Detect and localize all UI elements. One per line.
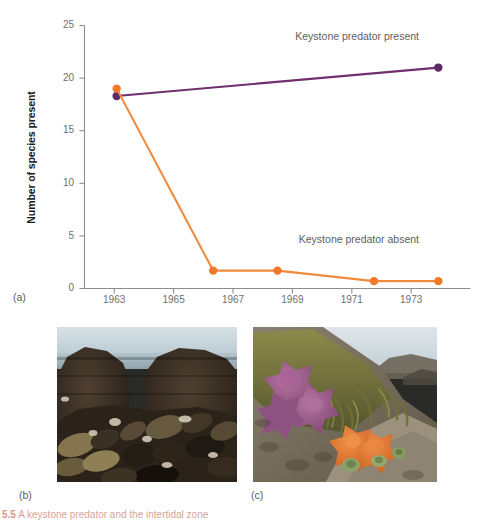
y-tick-label-25: 25 bbox=[63, 19, 75, 30]
x-tick-label-1973: 1973 bbox=[400, 294, 423, 305]
figure-caption-number: 5.5 bbox=[2, 509, 16, 520]
y-tick-label-15: 15 bbox=[63, 124, 75, 135]
annotation-predator-absent: Keystone predator absent bbox=[299, 233, 419, 245]
series-predator-present bbox=[112, 63, 442, 100]
figure-caption-text: A keystone predator and the intertidal z… bbox=[18, 509, 208, 520]
y-tick-label-20: 20 bbox=[63, 72, 75, 83]
x-tick-label-1969: 1969 bbox=[281, 294, 304, 305]
annotation-predator-present: Keystone predator present bbox=[295, 30, 419, 42]
y-tick-label-5: 5 bbox=[68, 230, 74, 241]
data-point bbox=[434, 277, 442, 285]
panel-tag-a: (a) bbox=[13, 291, 26, 303]
panel-tag-c: (c) bbox=[251, 489, 263, 501]
photo-mussel-bed bbox=[57, 327, 237, 482]
x-tick-label-1963: 1963 bbox=[103, 294, 126, 305]
data-point bbox=[273, 266, 281, 274]
photo-sea-stars bbox=[253, 327, 437, 482]
series-line bbox=[117, 89, 439, 282]
x-tick-label-1971: 1971 bbox=[341, 294, 364, 305]
x-axis-ticks: 1963 1965 1967 1969 1971 1973 bbox=[103, 289, 423, 306]
species-line-chart: 0 5 10 15 20 25 1963 1965 1967 1969 1971… bbox=[0, 0, 493, 310]
figure-caption: 5.5 A keystone predator and the intertid… bbox=[2, 509, 491, 520]
photo-c-graphic bbox=[253, 327, 437, 482]
data-point bbox=[370, 277, 378, 285]
series-predator-absent bbox=[112, 84, 442, 285]
y-tick-label-0: 0 bbox=[68, 282, 74, 293]
photo-b-graphic bbox=[57, 327, 237, 482]
data-point bbox=[209, 266, 217, 274]
series-line bbox=[117, 68, 439, 96]
data-point bbox=[434, 63, 442, 71]
chart-panel-a: Number of species present 0 5 10 15 20 2… bbox=[0, 0, 493, 310]
y-tick-label-10: 10 bbox=[63, 177, 75, 188]
x-tick-label-1965: 1965 bbox=[162, 294, 185, 305]
data-point bbox=[112, 84, 120, 92]
panel-tag-b: (b) bbox=[19, 489, 32, 501]
series-layer bbox=[112, 63, 442, 285]
y-axis-ticks: 0 5 10 15 20 25 bbox=[63, 19, 85, 293]
x-tick-label-1967: 1967 bbox=[222, 294, 245, 305]
